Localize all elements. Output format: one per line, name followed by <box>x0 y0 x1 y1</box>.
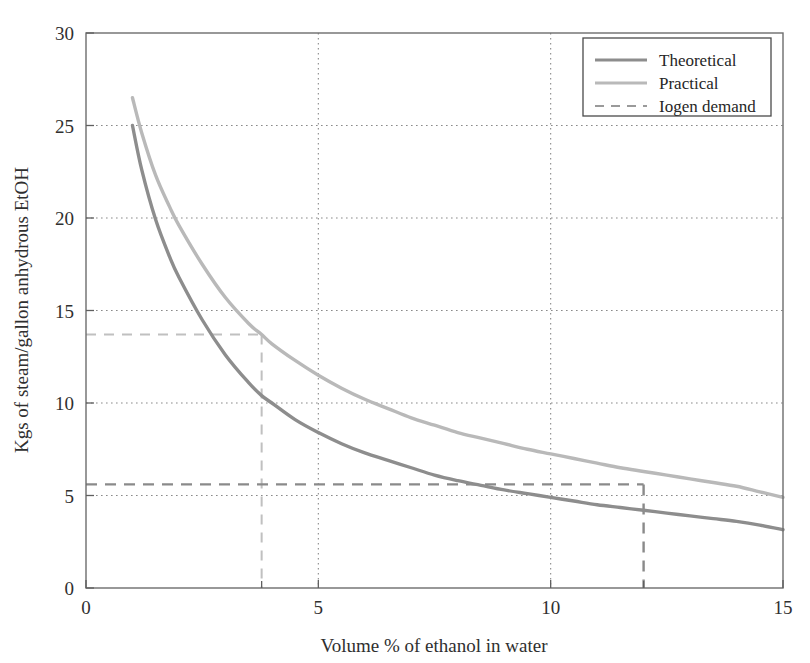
legend-label-theoretical: Theoretical <box>659 51 737 70</box>
chart-legend: TheoreticalPracticalIogen demand <box>583 38 771 116</box>
legend-label-iogen-demand: Iogen demand <box>659 97 756 116</box>
iogen-demand-reference-lines <box>86 335 644 588</box>
y-tick-label: 15 <box>55 301 74 322</box>
y-tick-label: 30 <box>55 23 74 44</box>
series-line-theoretical <box>132 126 783 530</box>
x-tick-label: 15 <box>774 597 793 618</box>
legend-label-practical: Practical <box>659 74 719 93</box>
chart-figure: 051015 051015202530 Volume % of ethanol … <box>0 0 810 663</box>
y-tick-label: 5 <box>65 486 75 507</box>
steam-demand-line-chart: 051015 051015202530 Volume % of ethanol … <box>0 0 810 663</box>
x-tick-label: 0 <box>81 597 91 618</box>
x-axis-title: Volume % of ethanol in water <box>320 635 548 656</box>
x-tick-label: 5 <box>314 597 324 618</box>
series-line-practical <box>132 98 783 498</box>
horizontal-gridlines <box>86 126 783 496</box>
y-tick-label: 20 <box>55 208 74 229</box>
x-tick-label: 10 <box>541 597 560 618</box>
vertical-gridlines <box>318 33 550 588</box>
y-axis-tick-labels: 051015202530 <box>55 23 74 599</box>
y-tick-label: 0 <box>65 578 75 599</box>
y-tick-label: 25 <box>55 116 74 137</box>
x-axis-tick-labels: 051015 <box>81 597 792 618</box>
y-axis-title: Kgs of steam/gallon anhydrous EtOH <box>11 167 32 453</box>
y-tick-label: 10 <box>55 393 74 414</box>
